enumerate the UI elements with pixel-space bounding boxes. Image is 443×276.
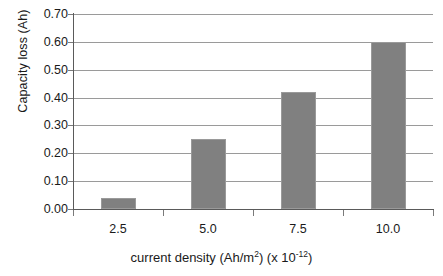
bar-chart: Capacity loss (Ah) 0.700.600.500.400.300… [0, 0, 443, 276]
x-axis-tick-mark [163, 210, 164, 216]
y-axis-tick-label: 0.70 [28, 8, 68, 20]
x-axis-tick-label: 5.0 [173, 222, 243, 236]
x-axis-title-main: current density (Ah/m [131, 250, 255, 265]
y-axis-tick-label: 0.60 [28, 36, 68, 48]
bar [101, 198, 136, 209]
x-axis-title-mid: ) (x 10 [259, 250, 296, 265]
x-axis-tick-label: 10.0 [353, 222, 423, 236]
y-axis-tick-label: 0.10 [28, 175, 68, 187]
bar [281, 92, 316, 209]
y-axis-line [73, 13, 74, 210]
y-axis-tick-label: 0.30 [28, 119, 68, 131]
y-axis-tick-label: 0.20 [28, 147, 68, 159]
x-axis-tick-mark [433, 210, 434, 216]
gridline [73, 14, 433, 15]
y-axis-tick-label: 0.00 [28, 203, 68, 215]
x-axis-tick-mark [73, 210, 74, 216]
x-axis-tick-label: 2.5 [83, 222, 153, 236]
x-axis-title-end: ) [308, 250, 312, 265]
y-axis-tick-label: 0.50 [28, 64, 68, 76]
x-axis-tick-label: 7.5 [263, 222, 333, 236]
y-axis-tick-labels: 0.700.600.500.400.300.200.100.00 [28, 0, 68, 276]
x-axis-tick-mark [343, 210, 344, 216]
y-axis-tick-label: 0.40 [28, 92, 68, 104]
bar [191, 139, 226, 209]
x-axis-title: current density (Ah/m2) (x 10-12) [0, 250, 443, 266]
x-axis-tick-mark [253, 210, 254, 216]
x-axis-title-scale-exponent: -12 [296, 249, 308, 259]
plot-area [73, 14, 433, 209]
bar [371, 42, 406, 209]
